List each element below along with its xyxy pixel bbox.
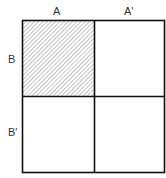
- venn-grid: [0, 0, 166, 178]
- cell-b-a-shaded: [23, 21, 94, 96]
